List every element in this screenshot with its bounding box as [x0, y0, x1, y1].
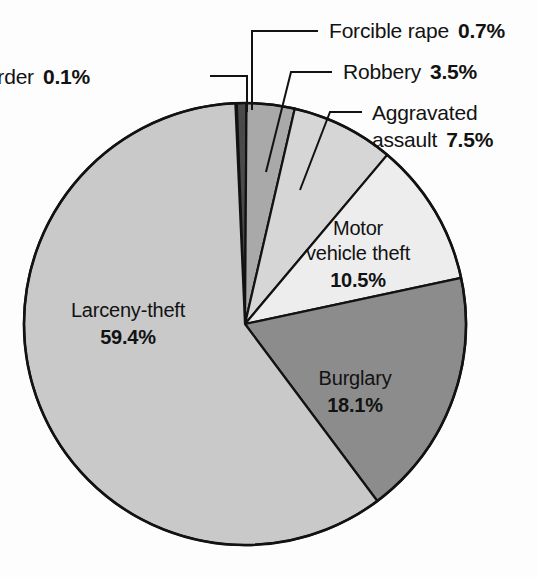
pie-slice-group [24, 103, 466, 545]
pie-chart-figure: Murder0.1%Forcible rape0.7%Robbery3.5%Ag… [0, 0, 537, 577]
pie-label-forcible-rape: Forcible rape0.7% [329, 19, 506, 42]
pie-chart-svg: Murder0.1%Forcible rape0.7%Robbery3.5%Ag… [0, 0, 537, 577]
pie-label-aggravated-assault: Aggravatedassault7.5% [372, 101, 494, 151]
pie-label-murder: Murder0.1% [0, 65, 91, 88]
pie-label-robbery: Robbery3.5% [343, 60, 478, 83]
